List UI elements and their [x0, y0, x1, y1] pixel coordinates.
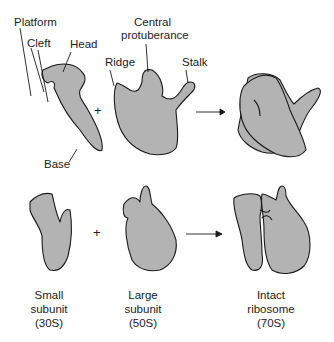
label-base: Base [44, 158, 70, 171]
intact-70s-right [261, 186, 310, 273]
label-platform: Platform [14, 16, 57, 29]
label-ridge: Ridge [105, 56, 135, 69]
caption-large-subunit: Large subunit (50S) [103, 288, 183, 330]
label-central: Central [134, 16, 171, 29]
label-head: Head [70, 38, 98, 51]
plus-sign-top: + [94, 104, 102, 117]
small-subunit-30s-shape [30, 193, 71, 270]
label-protuberance: protuberance [121, 29, 189, 42]
caption-intact-ribosome: Intact ribosome (70S) [231, 288, 311, 330]
intact-70s-left [234, 194, 263, 271]
plus-sign-bottom: + [93, 226, 101, 239]
large-subunit-shape [114, 70, 194, 155]
large-subunit-50s-shape [123, 186, 176, 271]
caption-small-subunit: Small subunit (30S) [9, 288, 89, 330]
label-stalk: Stalk [182, 56, 208, 69]
label-cleft: Cleft [27, 37, 51, 50]
